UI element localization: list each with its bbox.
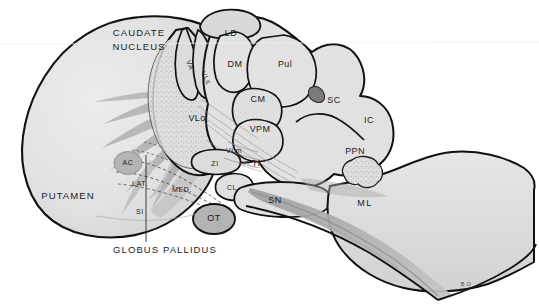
label-cm: CM <box>251 95 266 104</box>
label-ld: LD <box>225 29 237 38</box>
label-lat: LAT. <box>132 180 148 187</box>
ppn-nucleus <box>342 157 382 188</box>
label-h: H <box>254 159 261 168</box>
label-sn: SN <box>268 196 281 205</box>
label-dm: DM <box>228 60 243 69</box>
artist-signature: B.O <box>461 282 471 288</box>
label-ppn: PPN <box>345 147 365 156</box>
label-vlm: VLm <box>226 147 242 154</box>
label-caudate-nucleus-line2: NUCLEUS <box>112 42 165 52</box>
label-globus-pallidus: GLOBUS PALLIDUS <box>113 245 217 255</box>
label-si: SI <box>136 208 144 215</box>
label-sc: SC <box>327 96 340 105</box>
label-pul: Pul <box>278 60 292 69</box>
label-putamen: PUTAMEN <box>41 191 94 201</box>
label-ot: OT <box>207 214 220 223</box>
label-med: MED. <box>172 186 192 193</box>
brain-section-drawing <box>0 0 539 305</box>
label-ml: ML <box>357 199 373 208</box>
label-cl: CL <box>227 184 237 191</box>
label-zi: ZI <box>211 160 218 167</box>
label-vpm: VPM <box>250 125 271 134</box>
label-ac: AC <box>123 159 134 166</box>
anatomical-figure: CAUDATE NUCLEUS PUTAMEN GLOBUS PALLIDUS … <box>0 0 539 305</box>
label-ic: IC <box>364 116 374 125</box>
label-caudate-nucleus-line1: CAUDATE <box>113 28 165 38</box>
label-vlo: VLo <box>188 114 205 123</box>
